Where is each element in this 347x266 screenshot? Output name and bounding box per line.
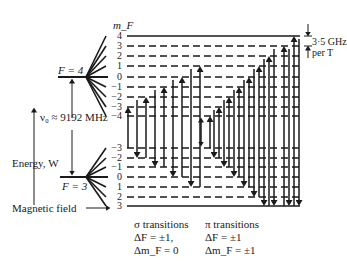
- sigma-rule2: Δm_F = 0: [134, 245, 178, 256]
- splitting-label: ν₀ ≈ 9192 MHz: [40, 112, 108, 123]
- sigma-rule1: ΔF = ±1,: [134, 232, 173, 243]
- energy-axis-label: Energy, W: [12, 158, 59, 169]
- zeeman-rate-line1: 3·5 GHz: [312, 36, 347, 47]
- pi-title: π transitions: [205, 219, 259, 230]
- f4-label: F = 4: [58, 65, 83, 76]
- mf-label: 3: [106, 201, 122, 211]
- mf-label: 1: [106, 61, 122, 71]
- zeeman-rate-marker: [304, 24, 312, 58]
- f3-label: F = 3: [62, 181, 87, 192]
- mf-label: −4: [106, 111, 122, 121]
- sigma-title: σ transitions: [134, 219, 189, 230]
- pi-transitions: [201, 39, 299, 206]
- pi-rule1: ΔF = ±1: [205, 232, 241, 243]
- pi-rule2: Δm_F = ±1: [205, 245, 256, 256]
- zeeman-rate-line2: per T: [312, 47, 333, 58]
- field-label: Magnetic field: [12, 203, 76, 214]
